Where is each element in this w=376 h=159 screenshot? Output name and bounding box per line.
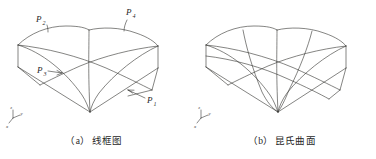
point-label-p3-sub: 3 (43, 71, 47, 77)
coons-axis-z-label: z (197, 105, 200, 110)
figure-panel-coons: z y x （b）昆氏曲面 (188, 0, 376, 159)
figure-caption-a: （a）线框图 (0, 133, 188, 147)
figure-caption-a-text: 线框图 (92, 136, 123, 146)
point-label-p4-sub: 4 (133, 13, 136, 19)
axis-triad-wireframe (9, 110, 20, 123)
interior-ridge-curve (89, 30, 90, 112)
figure-caption-b: （b）昆氏曲面 (188, 133, 376, 147)
point-label-p4: P 4 (125, 7, 136, 19)
coons-edge-lower-left (206, 67, 278, 112)
edge-top-right-arc (89, 28, 158, 46)
edge-lower-right (90, 68, 158, 112)
figure-caption-b-text: 昆氏曲面 (275, 136, 316, 146)
axis-y-line (13, 115, 20, 118)
coons-edge-top-left-arc (206, 26, 277, 45)
coons-left-silhouette (206, 45, 278, 112)
point-label-p1-sub: 1 (154, 101, 157, 107)
point-label-p2: P 2 (35, 14, 46, 26)
point-label-p3-base: P (36, 65, 43, 75)
coons-axis-y-line (201, 115, 208, 118)
coons-mesh-v-center (277, 30, 278, 112)
point-label-p2-sub: 2 (43, 20, 46, 26)
leader-p4 (124, 20, 127, 31)
wireframe-drawing: z y x P 2 P 4 P 3 P 1 (0, 0, 188, 135)
figure-pair-root: z y x P 2 P 4 P 3 P 1 （a）线框图 (0, 0, 376, 159)
coons-axis-y-label: y (208, 111, 212, 116)
edge-lower-left (18, 67, 90, 112)
axis-y-label: y (20, 111, 24, 116)
figure-caption-a-index: （a） (65, 136, 90, 146)
axis-z-label: z (9, 105, 12, 110)
point-label-p2-base: P (35, 14, 42, 24)
surface-left-silhouette (18, 45, 90, 112)
axis-x-label: x (5, 124, 9, 129)
point-label-p1-base: P (146, 95, 153, 105)
coons-axis-x-line (197, 118, 201, 123)
coons-surface-drawing: z y x (188, 0, 376, 135)
leader-p1 (128, 90, 145, 98)
edge-top-left-arc (18, 26, 89, 45)
coons-edge-top-right-arc (277, 28, 346, 46)
coons-mesh-u2 (206, 56, 329, 99)
coons-mesh-v-right (278, 31, 312, 112)
coons-axis-x-label: x (193, 124, 197, 129)
axis-triad-coons (197, 110, 208, 123)
point-label-p3: P 3 (36, 65, 47, 77)
coons-connector-left (206, 67, 228, 85)
coons-connector-right-inner (329, 90, 340, 99)
point-label-p1: P 1 (146, 95, 157, 107)
figure-panel-wireframe: z y x P 2 P 4 P 3 P 1 （a）线框图 (0, 0, 188, 159)
point-label-p4-base: P (125, 7, 132, 17)
figure-caption-b-index: （b） (248, 136, 274, 146)
axis-x-line (9, 118, 13, 123)
